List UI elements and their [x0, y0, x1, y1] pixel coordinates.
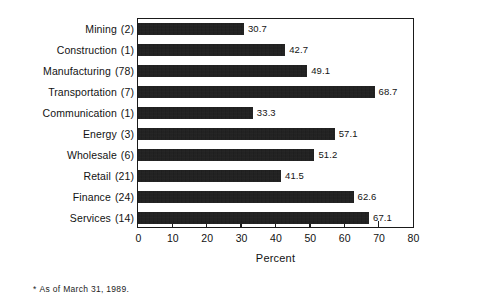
- footnote-star-icon: *: [33, 284, 37, 294]
- bar-value-label: 41.5: [285, 170, 304, 182]
- bar: [138, 65, 307, 77]
- category-label-name: Construction: [57, 44, 117, 56]
- category-axis-labels: Mining(2)Construction(1)Manufacturing(78…: [0, 18, 134, 228]
- category-label-count: (78): [115, 65, 134, 77]
- bar-value-label: 42.7: [289, 44, 308, 56]
- category-label: Retail(21): [0, 170, 134, 182]
- x-axis-tick-label: 10: [167, 232, 179, 245]
- bar: [138, 23, 244, 35]
- bar-value-label: 51.2: [318, 149, 337, 161]
- x-axis-tick-label: 20: [201, 232, 213, 245]
- category-label-name: Communication: [43, 107, 117, 119]
- bar-value-label: 67.1: [373, 212, 392, 224]
- category-label: Energy(3): [0, 128, 134, 140]
- category-label: Wholesale(6): [0, 149, 134, 161]
- category-label: Services(14): [0, 212, 134, 224]
- footnote-text: As of March 31, 1989.: [40, 284, 129, 294]
- category-label-count: (24): [115, 191, 134, 203]
- bar: [138, 44, 285, 56]
- bar: [138, 128, 334, 140]
- category-label-name: Manufacturing: [43, 65, 111, 77]
- category-label-count: (14): [115, 212, 134, 224]
- category-label-count: (21): [115, 170, 134, 182]
- x-axis-tick-label: 30: [236, 232, 248, 245]
- category-label-count: (1): [121, 107, 134, 119]
- category-label-count: (3): [121, 128, 134, 140]
- x-axis-tick-label: 50: [304, 232, 316, 245]
- chart-footnote: *As of March 31, 1989.: [33, 284, 129, 295]
- bar-value-label: 30.7: [248, 23, 267, 35]
- x-axis-title: Percent: [137, 252, 414, 265]
- x-axis-tick-label: 70: [373, 232, 385, 245]
- x-axis-tick-labels: 01020304050607080: [0, 232, 483, 246]
- category-label-name: Wholesale: [67, 149, 117, 161]
- bar-value-label: 49.1: [311, 65, 330, 77]
- category-label: Transportation(7): [0, 86, 134, 98]
- bar-chart: Mining(2)Construction(1)Manufacturing(78…: [0, 0, 483, 308]
- category-label-name: Retail: [83, 170, 110, 182]
- x-axis-tick-label: 80: [408, 232, 420, 245]
- category-label-count: (2): [121, 23, 134, 35]
- bar: [138, 149, 314, 161]
- category-label: Communication(1): [0, 107, 134, 119]
- bar-value-label: 62.6: [358, 191, 377, 203]
- bar-value-label: 33.3: [257, 107, 276, 119]
- bar-value-label: 57.1: [339, 128, 358, 140]
- bar: [138, 170, 281, 182]
- category-label: Mining(2): [0, 23, 134, 35]
- category-label-name: Services: [70, 212, 111, 224]
- bar: [138, 86, 374, 98]
- category-label: Manufacturing(78): [0, 65, 134, 77]
- category-label: Finance(24): [0, 191, 134, 203]
- bar: [138, 107, 252, 119]
- category-label-name: Energy: [83, 128, 117, 140]
- bar: [138, 191, 353, 203]
- category-label-name: Mining: [85, 23, 117, 35]
- category-label-name: Transportation: [48, 86, 117, 98]
- category-label-count: (7): [121, 86, 134, 98]
- bar: [138, 212, 369, 224]
- category-label-name: Finance: [73, 191, 111, 203]
- category-label-count: (6): [121, 149, 134, 161]
- x-axis-tick-label: 60: [339, 232, 351, 245]
- category-label-count: (1): [121, 44, 134, 56]
- bars-layer: 30.742.749.168.733.357.151.241.562.667.1: [138, 18, 413, 228]
- x-axis-tick-label: 40: [270, 232, 282, 245]
- bar-value-label: 68.7: [379, 86, 398, 98]
- category-label: Construction(1): [0, 44, 134, 56]
- x-axis-tick-label: 0: [135, 232, 141, 245]
